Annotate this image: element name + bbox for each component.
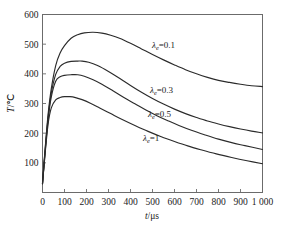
y-axis-tick-labels: 100200300400500600 bbox=[24, 10, 39, 168]
figure-container: 01002003004005006007008009001 000 100200… bbox=[0, 0, 283, 228]
series-annotations: λe=0.1λe=0.3λe=0.5λe=1 bbox=[142, 40, 175, 144]
x-tick-label: 200 bbox=[79, 197, 94, 207]
x-tick-label: 700 bbox=[189, 197, 204, 207]
series-label-1: λe=0.3 bbox=[149, 85, 174, 96]
y-tick-label: 500 bbox=[24, 40, 39, 50]
x-axis-tick-labels: 01002003004005006007008009001 000 bbox=[40, 197, 273, 207]
x-tick-label: 900 bbox=[233, 197, 248, 207]
y-tick-label: 600 bbox=[24, 10, 39, 20]
x-axis-label: t/μs bbox=[145, 211, 159, 221]
data-series-group bbox=[43, 32, 263, 183]
curve-series-0 bbox=[43, 32, 263, 183]
y-tick-label: 200 bbox=[24, 129, 39, 139]
x-tick-label: 100 bbox=[57, 197, 72, 207]
x-tick-label: 600 bbox=[167, 197, 182, 207]
series-label-3: λe=1 bbox=[142, 133, 159, 144]
curve-series-1 bbox=[43, 61, 263, 184]
y-axis-label: T/℃ bbox=[6, 94, 16, 113]
temperature-vs-time-chart: 01002003004005006007008009001 000 100200… bbox=[0, 0, 283, 228]
series-label-2: λe=0.5 bbox=[147, 109, 172, 120]
x-tick-label: 1 000 bbox=[252, 197, 274, 207]
y-tick-label: 400 bbox=[24, 69, 39, 79]
y-tick-label: 100 bbox=[24, 158, 39, 168]
x-tick-label: 300 bbox=[101, 197, 116, 207]
x-tick-label: 800 bbox=[211, 197, 226, 207]
x-axis-ticks bbox=[65, 189, 241, 193]
series-label-0: λe=0.1 bbox=[151, 40, 175, 51]
x-tick-label: 500 bbox=[145, 197, 160, 207]
x-tick-label: 0 bbox=[40, 197, 45, 207]
y-tick-label: 300 bbox=[24, 99, 39, 109]
x-tick-label: 400 bbox=[123, 197, 138, 207]
